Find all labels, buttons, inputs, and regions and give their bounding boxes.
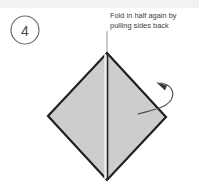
caption-line-2: pulling sides back [110,21,169,30]
origami-step-figure: 4 Fold in half again by pulling sides ba… [0,0,199,193]
top-band [0,0,199,8]
step-number-label: 4 [21,23,29,39]
caption-block: Fold in half again by pulling sides back [110,11,177,30]
figure-canvas: 4 Fold in half again by pulling sides ba… [0,0,199,193]
caption-line-1: Fold in half again by [110,11,177,20]
step-number-badge: 4 [11,16,39,44]
